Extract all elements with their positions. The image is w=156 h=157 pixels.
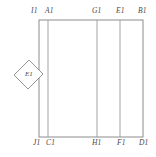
rotated-square-label: E1	[25, 71, 33, 78]
label-j1: J1	[33, 139, 40, 147]
label-e1-top: E1	[116, 7, 125, 15]
label-a1: A1	[45, 7, 54, 15]
label-c1: C1	[46, 139, 55, 147]
label-h1: H1	[92, 139, 102, 147]
label-g1: G1	[92, 7, 102, 15]
label-i1: I1	[31, 7, 38, 15]
main-rectangle	[39, 20, 143, 137]
figure-canvas	[0, 0, 156, 157]
label-f1: F1	[117, 139, 126, 147]
label-d1: D1	[139, 139, 149, 147]
label-b1: B1	[138, 7, 147, 15]
geometry-figure: I1 A1 G1 E1 B1 J1 C1 H1 F1 D1 E1	[0, 0, 156, 157]
